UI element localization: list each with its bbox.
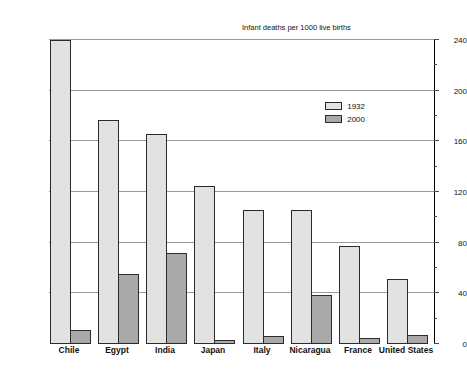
bar-2000 — [215, 340, 236, 344]
bar-group: Italy — [242, 40, 290, 344]
bar-2000 — [70, 330, 91, 344]
axis-tick — [434, 90, 439, 91]
plot-area: 04080120160200240 United StatesFranceNic… — [49, 40, 435, 344]
axis-tick-label: 200 — [441, 88, 467, 96]
bar-2000 — [311, 295, 332, 344]
axis-tick — [434, 191, 439, 192]
axis-tick — [434, 292, 439, 293]
axis-minor-tick — [434, 318, 437, 319]
axis-tick-label: 80 — [441, 240, 467, 248]
bar-1932 — [98, 120, 119, 344]
bar-1932 — [195, 186, 216, 344]
bar-1932 — [50, 40, 71, 344]
bar-2000 — [166, 253, 187, 344]
bar-1932 — [291, 210, 312, 344]
bar-group: Egypt — [97, 40, 145, 344]
bar-group: India — [145, 40, 193, 344]
bar-group: Nicaragua — [290, 40, 338, 344]
legend-label: 1932 — [347, 102, 365, 111]
axis-tick-label: 120 — [441, 189, 467, 197]
bar-1932 — [387, 279, 408, 344]
axis-minor-tick — [434, 166, 437, 167]
axis-minor-tick — [434, 267, 437, 268]
bar-group: Japan — [193, 40, 241, 344]
bar-group: France — [338, 40, 386, 344]
axis-tick-label: 0 — [441, 341, 467, 349]
axis-minor-tick — [434, 216, 437, 217]
axis-title: Infant deaths per 1000 live births — [242, 23, 462, 32]
bar-2000 — [118, 274, 139, 344]
axis-minor-tick — [434, 115, 437, 116]
bar-group: United States — [386, 40, 434, 344]
bar-group: Chile — [49, 40, 97, 344]
legend-item: 2000 — [290, 113, 365, 126]
axis-tick — [434, 39, 439, 40]
axis-tick — [434, 242, 439, 243]
bar-1932 — [243, 210, 264, 344]
legend-swatch — [325, 116, 342, 124]
bar-2000 — [407, 335, 428, 344]
axis-tick-label: 160 — [441, 138, 467, 146]
bar-1932 — [339, 246, 360, 344]
bar-2000 — [263, 336, 284, 344]
axis-minor-tick — [434, 64, 437, 65]
legend-label: 2000 — [347, 115, 365, 124]
category-label: Chile — [36, 346, 102, 355]
legend-swatch — [325, 103, 342, 111]
axis-tick — [434, 140, 439, 141]
bar-1932 — [146, 134, 167, 344]
legend-item: 1932 — [290, 100, 365, 113]
axis-tick-label: 40 — [441, 290, 467, 298]
axis-tick-label: 240 — [441, 37, 467, 45]
bar-2000 — [359, 338, 380, 344]
chart-legend: 20001932 — [290, 100, 365, 126]
axis-tick — [434, 343, 439, 344]
